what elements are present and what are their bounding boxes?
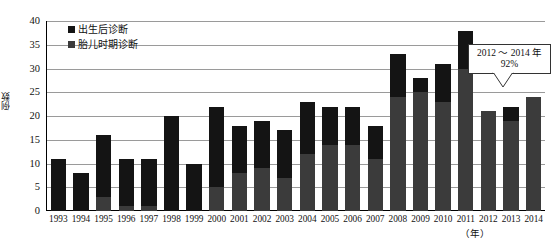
legend-label-fetal: 胎儿时期诊断: [78, 39, 138, 50]
bar-segment-fetal: [322, 145, 337, 212]
bar-column: [345, 107, 360, 212]
bar-segment-fetal: [300, 154, 315, 211]
y-axis-tick-label: 5: [14, 182, 40, 192]
bar-column: [119, 159, 134, 211]
bar-segment-fetal: [119, 206, 134, 211]
stacked-bar-chart: 例数 0510152025303540 19931994199519961997…: [0, 0, 557, 248]
y-axis-title: 例数: [0, 92, 14, 110]
bar-segment-fetal: [435, 102, 450, 211]
y-axis-tick-label: 35: [14, 40, 40, 50]
bar-column: [209, 107, 224, 212]
bar-column: [141, 159, 156, 211]
bar-segment-postnatal: [164, 116, 179, 211]
bar-segment-postnatal: [345, 107, 360, 145]
callout-line-period: 2012 ～ 2014 年: [471, 48, 548, 59]
y-axis-tick-label: 10: [14, 159, 40, 169]
bar-column: [435, 64, 450, 211]
bar-column: [322, 107, 337, 212]
bar-segment-postnatal: [51, 159, 66, 211]
bar-segment-fetal: [503, 121, 518, 211]
bar-segment-fetal: [481, 111, 496, 211]
y-axis-tick-label: 25: [14, 87, 40, 97]
bar-segment-postnatal: [209, 107, 224, 188]
bar-segment-fetal: [277, 178, 292, 211]
bar-segment-postnatal: [390, 54, 405, 97]
callout-pointer-icon: [492, 72, 514, 88]
x-axis-tick-labels: 1993199419951996199719981999200020012002…: [47, 213, 545, 227]
bar-column: [300, 102, 315, 211]
bar-segment-postnatal: [73, 173, 88, 211]
bar-segment-postnatal: [277, 130, 292, 178]
bar-segment-postnatal: [141, 159, 156, 207]
bar-column: [73, 173, 88, 211]
bar-segment-fetal: [526, 97, 541, 211]
bar-column: [503, 107, 518, 212]
bar-segment-fetal: [209, 187, 224, 211]
bar-column: [413, 78, 428, 211]
bar-segment-postnatal: [322, 107, 337, 145]
bar-segment-postnatal: [503, 107, 518, 121]
y-axis-tick-label: 0: [14, 206, 40, 216]
callout-line-percent: 92%: [471, 59, 548, 70]
y-axis-tick-label: 40: [14, 16, 40, 26]
legend-label-postnatal: 出生后诊断: [78, 24, 128, 35]
bar-segment-postnatal: [96, 135, 111, 197]
bar-segment-fetal: [390, 97, 405, 211]
bar-column: [368, 126, 383, 212]
bar-column: [96, 135, 111, 211]
bar-segment-fetal: [96, 197, 111, 211]
bar-column: [254, 121, 269, 211]
x-axis-title: （年）: [420, 228, 530, 240]
bar-segment-fetal: [254, 168, 269, 211]
y-axis-tick-label: 20: [14, 111, 40, 121]
y-axis-tick-label: 30: [14, 64, 40, 74]
legend-item-postnatal: 出生后诊断: [68, 22, 198, 36]
bar-segment-postnatal: [254, 121, 269, 169]
legend-swatch-icon-fetal: [68, 41, 75, 48]
bar-segment-postnatal: [186, 164, 201, 212]
y-axis-tick-label: 15: [14, 135, 40, 145]
bar-segment-postnatal: [368, 126, 383, 159]
bar-segment-postnatal: [119, 159, 134, 207]
bar-segment-fetal: [232, 173, 247, 211]
legend-item-fetal: 胎儿时期诊断: [68, 37, 198, 51]
fetal-rate-callout: 2012 ～ 2014 年 92%: [468, 44, 551, 74]
bar-column: [186, 164, 201, 212]
bar-segment-postnatal: [232, 126, 247, 174]
bar-segment-fetal: [368, 159, 383, 211]
bar-column: [390, 54, 405, 211]
bar-segment-fetal: [458, 69, 473, 212]
bar-column: [164, 116, 179, 211]
bar-segment-fetal: [141, 206, 156, 211]
bar-column: [526, 97, 541, 211]
x-axis-tick-label: 2014: [520, 213, 547, 225]
bar-segment-fetal: [345, 145, 360, 212]
bar-segment-fetal: [413, 92, 428, 211]
bar-column: [51, 159, 66, 211]
bar-segment-postnatal: [435, 64, 450, 102]
bar-segment-postnatal: [413, 78, 428, 92]
bar-column: [232, 126, 247, 212]
bar-column: [481, 111, 496, 211]
bar-column: [277, 130, 292, 211]
legend-swatch-icon-postnatal: [68, 26, 75, 33]
bar-segment-postnatal: [300, 102, 315, 154]
chart-legend: 出生后诊断 胎儿时期诊断: [68, 22, 198, 52]
